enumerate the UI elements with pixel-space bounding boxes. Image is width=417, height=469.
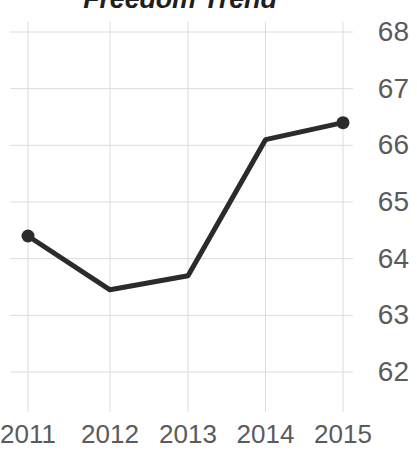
y-axis-tick-label: 62 (378, 358, 409, 386)
y-axis-tick-label: 64 (378, 245, 409, 273)
data-point-marker (337, 116, 350, 129)
y-axis-tick-label: 63 (378, 301, 409, 329)
gridlines-horizontal (10, 32, 353, 372)
data-point-marker (22, 230, 35, 243)
gridlines-vertical (28, 22, 343, 412)
x-axis-tick-label: 2013 (159, 421, 217, 447)
plot-area (0, 0, 417, 469)
y-axis-tick-label: 67 (378, 75, 409, 103)
data-line-series-freedom (28, 123, 343, 290)
chart-container: Freedom Trend 68676665646362 20112012201… (0, 0, 417, 469)
x-axis-tick-label: 2011 (0, 421, 56, 447)
data-point-markers (22, 116, 350, 242)
x-axis-tick-label: 2012 (81, 421, 139, 447)
x-axis-tick-label: 2015 (314, 421, 372, 447)
x-axis-tick-label: 2014 (237, 421, 295, 447)
y-axis-tick-label: 68 (378, 18, 409, 46)
chart-svg (0, 0, 417, 469)
y-axis-tick-label: 65 (378, 188, 409, 216)
y-axis-tick-label: 66 (378, 131, 409, 159)
